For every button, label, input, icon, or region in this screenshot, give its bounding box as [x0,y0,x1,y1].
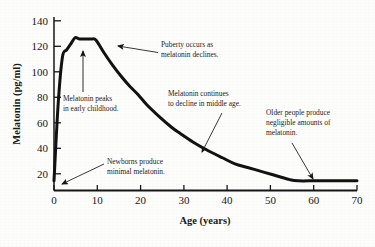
older-people-line-2: negligible amounts of [266,118,331,127]
y-tick-label-60: 60 [37,117,49,129]
puberty-line-2: melatonin declines. [161,50,219,59]
y-tick-label-100: 100 [32,66,49,78]
chart-canvas: 140 120 100 80 60 40 20 0 10 20 30 40 50 [0,0,375,247]
y-tick-label-140: 140 [32,15,49,27]
x-tick-label-10: 10 [92,194,104,206]
x-tick-label-70: 70 [352,194,364,206]
annotation-middle-age: Melatonin continues to decline in middle… [168,89,241,152]
x-axis-tick-labels: 0 10 20 30 40 50 60 70 [51,194,363,206]
y-tick-label-120: 120 [32,40,49,52]
middle-age-arrow [202,113,222,152]
middle-age-line-2: to decline in middle age. [168,99,241,108]
y-tick-label-20: 20 [37,168,49,180]
annotation-puberty: Puberty occurs as melatonin declines. [118,40,219,59]
annotation-newborns: Newborns produce minimal melatonin. [62,157,165,184]
x-tick-label-40: 40 [222,194,234,206]
older-people-line-3: melatonin. [266,128,298,137]
x-tick-label-50: 50 [265,194,277,206]
y-tick-label-40: 40 [37,142,49,154]
x-tick-label-0: 0 [51,194,57,206]
annotation-older-people: Older people produce negligible amounts … [266,108,331,179]
y-tick-label-80: 80 [37,91,49,103]
older-people-arrow [292,143,313,179]
peak-line-2: in early childhood. [63,104,119,113]
newborns-arrow [62,164,104,184]
newborns-line-2: minimal melatonin. [107,167,165,176]
middle-age-line-1: Melatonin continues [168,89,229,98]
x-tick-label-60: 60 [308,194,320,206]
newborns-line-1: Newborns produce [107,157,164,166]
y-axis-tick-labels: 140 120 100 80 60 40 20 [32,15,49,180]
older-people-line-1: Older people produce [266,108,331,117]
x-axis-title: Age (years) [179,215,231,227]
x-tick-label-20: 20 [135,194,147,206]
peak-line-1: Melatonin peaks [63,94,112,103]
melatonin-lifespan-chart: 140 120 100 80 60 40 20 0 10 20 30 40 50 [0,0,375,247]
puberty-line-1: Puberty occurs as [161,40,213,49]
puberty-arrow [118,46,158,53]
x-tick-label-30: 30 [178,194,190,206]
y-axis-title: Melatonin (pg/ml) [11,63,23,145]
